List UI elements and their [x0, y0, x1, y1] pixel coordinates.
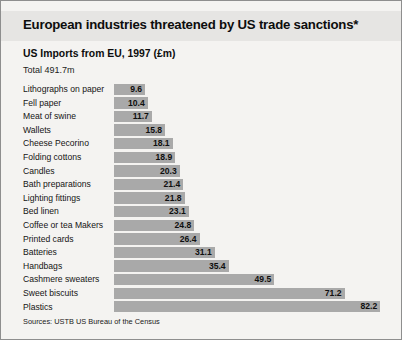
bar-row: Meat of swine11.7 [1, 110, 402, 124]
bar-value-label: 20.3 [160, 166, 180, 177]
bar-row: Coffee or tea Makers24.8 [1, 219, 402, 233]
bar-category-label: Folding cottons [23, 152, 81, 163]
bar-value-label: 15.8 [145, 125, 165, 136]
bar-track: 24.8 [114, 220, 399, 231]
bar [114, 301, 380, 312]
bar-track: 20.3 [114, 165, 399, 176]
bar-value-label: 18.1 [153, 138, 173, 149]
bar-value-label: 11.7 [133, 111, 152, 122]
bar-category-label: Printed cards [23, 234, 74, 245]
bar-track: 71.2 [114, 288, 399, 299]
bar-category-label: Sweet biscuits [23, 288, 78, 299]
bar-track: 26.4 [114, 233, 399, 244]
bar-row: Folding cottons18.9 [1, 151, 402, 165]
bar [114, 274, 274, 285]
bar-category-label: Meat of swine [23, 111, 76, 122]
bar-value-label: 24.8 [175, 220, 195, 231]
chart-title: European industries threatened by US tra… [23, 17, 393, 32]
bar-row: Wallets15.8 [1, 124, 402, 138]
bar-row: Bed linen23.1 [1, 205, 402, 219]
bar-value-label: 18.9 [155, 152, 175, 163]
bar-track: 31.1 [114, 247, 399, 258]
bar-value-label: 21.8 [165, 193, 185, 204]
bar-row: Fell paper10.4 [1, 97, 402, 111]
bar-row: Plastics82.2 [1, 301, 402, 315]
bar-category-label: Batteries [23, 247, 57, 258]
bar-row: Lighting fittings21.8 [1, 192, 402, 206]
bar-category-label: Lighting fittings [23, 193, 80, 204]
bar-row: Cashmere sweaters49.5 [1, 273, 402, 287]
bar-track: 35.4 [114, 260, 399, 271]
bar-category-label: Bed linen [23, 206, 59, 217]
bar-value-label: 31.1 [195, 247, 215, 258]
bar-value-label: 71.2 [325, 288, 345, 299]
bar-value-label: 35.4 [209, 261, 229, 272]
bar-category-label: Plastics [23, 302, 53, 313]
bar-category-label: Coffee or tea Makers [23, 220, 103, 231]
chart-source-note: Sources: USTB US Bureau of the Census [23, 317, 160, 326]
bar-row: Printed cards26.4 [1, 233, 402, 247]
bar-category-label: Bath preparations [23, 179, 91, 190]
bar-value-label: 82.2 [360, 301, 380, 312]
bar-category-label: Cashmere sweaters [23, 274, 99, 285]
bar-track: 18.9 [114, 152, 399, 163]
bar-track: 21.8 [114, 192, 399, 203]
bar-value-label: 49.5 [255, 274, 275, 285]
bar-value-label: 10.4 [128, 98, 148, 109]
bar-track: 11.7 [114, 111, 399, 122]
bar-chart-plot: Lithographs on paper9.6Fell paper10.4Mea… [1, 83, 402, 314]
bar-value-label: 21.4 [164, 179, 184, 190]
bar-row: Bath preparations21.4 [1, 178, 402, 192]
bar-row: Batteries31.1 [1, 246, 402, 260]
bar-track: 82.2 [114, 301, 399, 312]
bar-category-label: Handbags [23, 261, 62, 272]
bar-category-label: Cheese Pecorino [23, 138, 89, 149]
bar-value-label: 23.1 [169, 206, 189, 217]
bar [114, 288, 345, 299]
bar-track: 18.1 [114, 138, 399, 149]
bar-row: Handbags35.4 [1, 260, 402, 274]
bar-track: 21.4 [114, 179, 399, 190]
bar-track: 15.8 [114, 124, 399, 135]
bar-category-label: Fell paper [23, 98, 61, 109]
bar-category-label: Candles [23, 166, 55, 177]
bar-value-label: 9.6 [130, 84, 145, 95]
bar-row: Candles20.3 [1, 165, 402, 179]
bar-row: Cheese Pecorino18.1 [1, 137, 402, 151]
bar-value-label: 26.4 [180, 234, 200, 245]
bar-track: 9.6 [114, 84, 399, 95]
chart-figure: European industries threatened by US tra… [0, 0, 402, 340]
bar-track: 49.5 [114, 274, 399, 285]
bar-category-label: Wallets [23, 125, 51, 136]
bar-row: Sweet biscuits71.2 [1, 287, 402, 301]
chart-subtitle: US Imports from EU, 1997 (£m) [23, 48, 175, 59]
bar-track: 10.4 [114, 97, 399, 108]
bar-track: 23.1 [114, 206, 399, 217]
bar-category-label: Lithographs on paper [23, 84, 104, 95]
bar-row: Lithographs on paper9.6 [1, 83, 402, 97]
chart-total-label: Total 491.7m [23, 65, 75, 75]
